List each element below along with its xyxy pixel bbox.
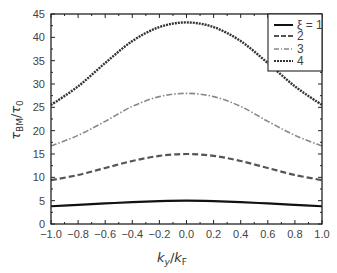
x-tick-label: 0.4: [233, 228, 248, 240]
series-line-2: [51, 154, 322, 180]
x-tick-labels: −1.0−0.8−0.6−0.4−0.20.00.20.40.60.81.0: [40, 228, 330, 240]
y-tick-label: 20: [33, 125, 45, 137]
y-tick-label: 35: [33, 55, 45, 67]
svg-text:ky/kF: ky/kF: [157, 250, 187, 267]
y-tick-label: 15: [33, 148, 45, 160]
y-tick-label: 0: [39, 218, 45, 230]
y-tick-labels: 051015202530354045: [33, 8, 45, 230]
x-tick-label: −0.4: [121, 228, 143, 240]
x-tick-label: 0.0: [179, 228, 194, 240]
y-axis-label: τBM/τ0: [8, 100, 25, 140]
y-tick-label: 10: [33, 171, 45, 183]
svg-text:τBM/τ0: τBM/τ0: [8, 100, 25, 140]
series-line-3: [51, 93, 322, 146]
x-tick-label: 0.8: [287, 228, 302, 240]
x-axis-label: ky/kF: [157, 250, 187, 267]
legend-label-4: 4: [297, 54, 304, 68]
x-tick-label: 0.6: [260, 228, 275, 240]
x-tick-label: 0.2: [206, 228, 221, 240]
y-tick-label: 5: [39, 195, 45, 207]
y-tick-label: 45: [33, 8, 45, 20]
legend-label-2: 2: [297, 29, 304, 43]
x-tick-label: −0.8: [67, 228, 89, 240]
x-tick-label: −0.2: [149, 228, 171, 240]
legend: ξ = 1 2 3 4: [268, 14, 323, 71]
line-chart: −1.0−0.8−0.6−0.4−0.20.00.20.40.60.81.0 0…: [0, 0, 337, 273]
y-tick-label: 30: [33, 78, 45, 90]
x-tick-label: 1.0: [314, 228, 329, 240]
x-tick-label: −0.6: [94, 228, 116, 240]
series-line-1: [51, 201, 322, 207]
y-tick-label: 40: [33, 31, 45, 43]
y-tick-label: 25: [33, 101, 45, 113]
